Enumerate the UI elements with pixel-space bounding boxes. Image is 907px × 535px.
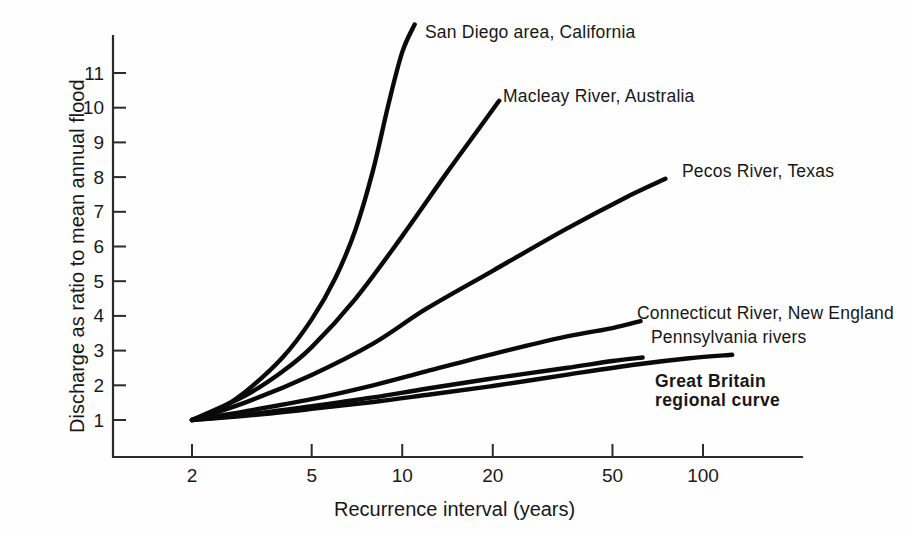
y-tick-label: 2 [93, 375, 104, 396]
x-axis-title: Recurrence interval (years) [334, 498, 575, 521]
x-tick-label: 5 [306, 465, 317, 486]
y-tick-label: 7 [93, 201, 104, 222]
tick-labels-group: 123456789101125102050100 [83, 63, 719, 487]
y-tick-label: 3 [93, 340, 104, 361]
y-tick-label: 1 [93, 410, 104, 431]
series-label-great-britain-1: Great Britain [655, 371, 766, 392]
series-label-pecos: Pecos River, Texas [682, 161, 834, 182]
series-label-connecticut: Connecticut River, New England [637, 303, 894, 324]
y-tick-label: 6 [93, 236, 104, 257]
series-label-pennsylvania: Pennsylvania rivers [651, 327, 807, 348]
flood-frequency-chart: 123456789101125102050100 [0, 0, 907, 535]
y-tick-label: 5 [93, 271, 104, 292]
y-tick-label: 4 [93, 305, 104, 326]
x-tick-label: 20 [482, 465, 503, 486]
series-label-great-britain-2: regional curve [655, 390, 780, 411]
series-label-macleay: Macleay River, Australia [503, 86, 695, 107]
curves-group [192, 24, 732, 420]
series-curve [192, 24, 415, 420]
series-curve [192, 321, 641, 420]
y-axis-title: Discharge as ratio to mean annual flood [66, 79, 89, 433]
y-tick-label: 8 [93, 167, 104, 188]
x-tick-label: 100 [687, 465, 719, 486]
chart-page: 123456789101125102050100 Discharge as ra… [0, 0, 907, 535]
y-tick-label: 9 [93, 132, 104, 153]
series-label-san-diego: San Diego area, California [425, 22, 635, 43]
x-tick-label: 50 [602, 465, 623, 486]
x-tick-label: 10 [392, 465, 413, 486]
x-tick-label: 2 [187, 465, 198, 486]
